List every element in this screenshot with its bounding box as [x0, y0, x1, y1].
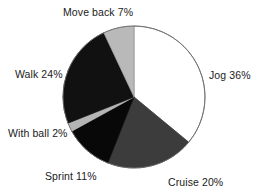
slice-label-with-ball: With ball 2%	[8, 128, 68, 139]
slice-label-cruise: Cruise 20%	[168, 177, 223, 188]
slice-label-move-back: Move back 7%	[63, 7, 133, 18]
pie-slices-group	[63, 26, 205, 168]
slice-label-jog: Jog 36%	[209, 70, 251, 81]
slice-label-walk: Walk 24%	[15, 69, 63, 80]
slice-label-sprint: Sprint 11%	[45, 171, 97, 182]
pie-chart-canvas	[0, 0, 264, 196]
pie-chart: Jog 36% Cruise 20% Sprint 11% With ball …	[0, 0, 264, 196]
